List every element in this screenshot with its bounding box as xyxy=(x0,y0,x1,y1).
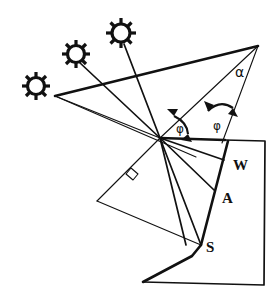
vertex-to-a-line xyxy=(160,138,214,190)
geometry-diagram: α φ φ W A S xyxy=(0,0,275,299)
normal-base-line xyxy=(97,201,201,245)
angle-label-phi-left: φ xyxy=(176,122,184,136)
ground-fold-line xyxy=(143,245,201,282)
sun-ray-line-high xyxy=(124,44,160,138)
point-label-s: S xyxy=(206,239,214,255)
sun-icon xyxy=(62,40,90,68)
angle-label-phi-right: φ xyxy=(213,119,221,133)
apex-to-vertex-line xyxy=(160,46,258,138)
vertex-to-box-top-line xyxy=(160,138,225,140)
apex-to-wall-top-line xyxy=(222,46,258,143)
angle-arc-icon xyxy=(204,101,238,117)
angle-label-alpha: α xyxy=(235,64,244,80)
sun-icon xyxy=(22,72,50,100)
point-label-a: A xyxy=(222,190,233,206)
surface-normal-line xyxy=(97,138,160,201)
point-label-w: W xyxy=(233,157,248,173)
vertex-to-w-line xyxy=(160,138,224,160)
diagram-canvas: α φ φ W A S xyxy=(0,0,275,299)
vertex-to-s-line xyxy=(160,138,201,245)
sun-icon xyxy=(106,18,136,48)
